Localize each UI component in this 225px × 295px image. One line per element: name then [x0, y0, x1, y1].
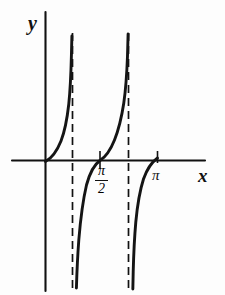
tick-label-pi-over-2-numerator: π [95, 164, 108, 179]
tick-label-pi: π [152, 168, 160, 183]
tangent-branch-0 [46, 36, 72, 162]
tangent-function-graph: y x π 2 π [0, 0, 225, 295]
y-axis-label: y [28, 13, 37, 33]
tick-label-pi-over-2-denominator: 2 [95, 182, 108, 197]
tangent-branch-1-upper [100, 34, 128, 161]
tick-label-pi-over-2: π 2 [95, 164, 108, 196]
x-axis-label: x [198, 166, 208, 185]
graph-canvas [0, 0, 225, 295]
